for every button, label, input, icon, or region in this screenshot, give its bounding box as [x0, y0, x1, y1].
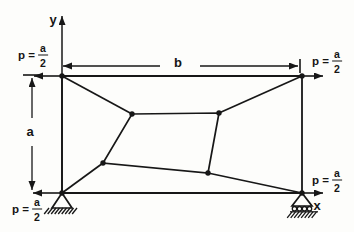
fraction-numerator: a	[332, 168, 342, 181]
fraction-denominator: 2	[40, 56, 46, 68]
fraction-numerator: a	[32, 197, 42, 210]
load-fraction: a 2	[38, 43, 48, 68]
load-prefix: p =	[312, 55, 329, 67]
dimension-lines	[23, 59, 300, 190]
load-fraction: a 2	[32, 197, 42, 222]
load-label-bottom-left: p = a 2	[12, 197, 42, 222]
fraction-denominator: 2	[334, 62, 340, 74]
load-label-top-right: p = a 2	[312, 49, 342, 74]
y-axis-label: y	[49, 13, 56, 26]
x-axis-label: x	[313, 199, 320, 212]
inner-panel	[103, 113, 219, 173]
pin-support-icon	[44, 193, 77, 214]
load-fraction: a 2	[332, 168, 342, 193]
fraction-denominator: 2	[334, 181, 340, 193]
fraction-numerator: a	[332, 49, 342, 62]
load-prefix: p =	[12, 203, 29, 215]
fraction-numerator: a	[38, 43, 48, 56]
fraction-denominator: 2	[34, 210, 40, 222]
height-dimension-label: a	[26, 125, 33, 138]
load-label-bottom-right: p = a 2	[312, 168, 342, 193]
load-fraction: a 2	[332, 49, 342, 74]
diagonal-members	[62, 76, 302, 193]
outer-frame	[62, 76, 302, 193]
load-arrows	[33, 76, 323, 193]
width-dimension-label: b	[174, 56, 182, 69]
truss-diagram-canvas	[0, 0, 354, 232]
truss-figure: y x b a p = a 2 p = a 2 p = a 2 p = a 2	[0, 0, 354, 232]
load-label-top-left: p = a 2	[18, 43, 48, 68]
load-prefix: p =	[312, 174, 329, 186]
coordinate-axes	[62, 16, 323, 193]
load-prefix: p =	[18, 49, 35, 61]
